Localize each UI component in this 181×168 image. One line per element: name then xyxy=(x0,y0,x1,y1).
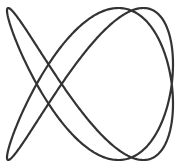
lissajous-figure xyxy=(0,0,181,168)
lissajous-curve-path xyxy=(7,8,173,160)
